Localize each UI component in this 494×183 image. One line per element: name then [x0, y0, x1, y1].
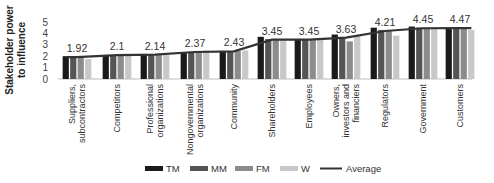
bar-tm	[220, 52, 226, 79]
legend-item-w: W	[280, 163, 310, 174]
category-label: Shareholders	[267, 84, 277, 138]
bar-w	[280, 40, 286, 79]
bar-fm	[273, 40, 279, 79]
bar-group	[181, 51, 210, 80]
legend-item-mm: MM	[190, 163, 227, 174]
legend-item-fm: FM	[235, 163, 270, 174]
y-tick-label: 3	[42, 39, 48, 50]
bar-mm	[416, 28, 422, 79]
category-label: Nongovernmental	[185, 84, 195, 155]
stakeholder-chart: Stakeholder powerto influence 012345 1.9…	[0, 0, 494, 183]
bar-w	[85, 59, 91, 79]
data-label: 4.21	[375, 16, 396, 28]
bar-tm	[446, 28, 452, 79]
bar-mm	[148, 54, 154, 79]
category-label: Suppliers,	[67, 84, 77, 124]
bar-fm	[196, 53, 202, 79]
bar-group	[409, 27, 438, 79]
bar-mm	[265, 39, 271, 79]
bar-group	[371, 28, 400, 79]
bar-mm	[378, 30, 384, 79]
y-tick-label: 5	[42, 17, 48, 28]
bar-group	[141, 54, 170, 79]
bar-w	[468, 30, 474, 79]
legend-label: MM	[211, 163, 227, 174]
bar-fm	[347, 41, 353, 79]
bar-group	[103, 55, 132, 79]
y-axis-ticks: 012345	[42, 17, 48, 85]
category-label: Professional	[145, 84, 155, 134]
legend: TMMMFMWAverage	[145, 163, 381, 174]
legend-swatch	[145, 166, 163, 171]
bar-tm	[371, 28, 377, 79]
bar-tm	[63, 56, 69, 79]
legend-label: Average	[346, 163, 381, 174]
bar-mm	[70, 57, 76, 79]
category-label: organizations	[155, 84, 165, 138]
data-label: 2.14	[145, 40, 166, 52]
bar-mm	[302, 39, 308, 79]
legend-swatch	[280, 166, 298, 171]
category-label: financiers	[351, 84, 361, 123]
bar-fm	[156, 55, 162, 79]
data-label: 2.43	[224, 36, 245, 48]
legend-swatch	[190, 166, 208, 171]
bar-w	[242, 51, 248, 80]
data-label: 3.45	[299, 25, 320, 37]
data-label: 4.45	[413, 13, 434, 25]
bar-fm	[461, 28, 467, 79]
data-label: 1.92	[67, 42, 88, 54]
y-tick-label: 4	[42, 28, 48, 39]
bar-tm	[141, 54, 147, 79]
bar-tm	[103, 55, 109, 79]
legend-swatch	[235, 166, 253, 171]
category-label: Employees	[304, 84, 314, 129]
data-label: 2.1	[110, 40, 125, 52]
category-label: Competitors	[112, 84, 122, 133]
category-label: Government	[418, 84, 428, 134]
bar-tm	[181, 52, 187, 79]
category-label: Owners,	[331, 84, 341, 118]
bar-w	[125, 55, 131, 79]
bar-fm	[235, 51, 241, 79]
bar-group	[446, 28, 475, 79]
legend-label: W	[301, 163, 310, 174]
bar-mm	[453, 28, 459, 79]
bar-w	[393, 36, 399, 79]
legend-item-average: Average	[320, 163, 381, 174]
bar-tm	[295, 39, 301, 79]
bar-mm	[227, 52, 233, 79]
y-tick-label: 2	[42, 51, 48, 62]
category-label: investors and	[341, 84, 351, 138]
bar-fm	[118, 55, 124, 79]
bar-mm	[110, 55, 116, 79]
y-tick-label: 0	[42, 74, 48, 85]
bar-w	[203, 51, 209, 80]
data-label: 3.63	[336, 23, 357, 35]
bar-group	[295, 39, 324, 79]
y-axis-label: Stakeholder powerto influence	[4, 5, 27, 95]
data-label: 2.37	[185, 37, 206, 49]
bar-w	[354, 36, 360, 79]
bar-tm	[409, 27, 415, 79]
legend-label: TM	[166, 163, 180, 174]
bar-w	[163, 55, 169, 79]
data-label: 3.45	[262, 25, 283, 37]
bar-fm	[386, 30, 392, 79]
category-label: Customers	[455, 84, 465, 128]
bar-mm	[188, 52, 194, 79]
bar-group	[220, 51, 249, 80]
bar-fm	[78, 57, 84, 79]
category-label: subcontractors	[77, 84, 87, 144]
bar-w	[317, 40, 323, 79]
bar-w	[431, 29, 437, 79]
y-axis-label-line: Stakeholder power	[4, 5, 15, 95]
bar-group	[63, 56, 92, 79]
category-labels: Suppliers,subcontractorsCompetitorsProfe…	[67, 84, 465, 156]
bar-fm	[424, 29, 430, 79]
legend-item-tm: TM	[145, 163, 180, 174]
bar-tm	[332, 35, 338, 79]
category-label: Community	[229, 84, 239, 130]
bar-mm	[339, 38, 345, 79]
category-label: Regulators	[380, 84, 390, 128]
